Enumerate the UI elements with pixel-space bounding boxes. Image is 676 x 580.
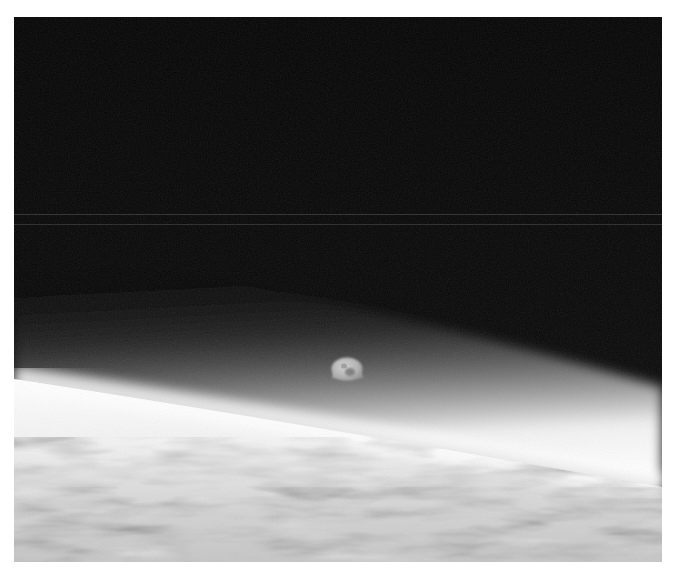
space-photograph: [14, 17, 662, 562]
film-grain: [14, 17, 662, 562]
photo-canvas: [14, 17, 662, 562]
page: [0, 0, 676, 580]
